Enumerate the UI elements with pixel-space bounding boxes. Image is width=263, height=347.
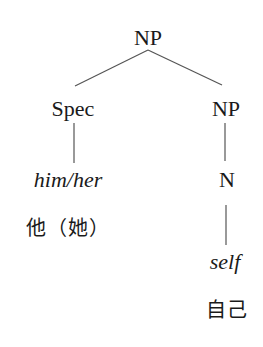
node-spec-word: him/her [34,169,102,191]
node-n: N [219,169,235,191]
node-np: NP [212,98,240,120]
node-n-gloss: 自己 [206,300,248,320]
node-spec-gloss: 他（她） [26,218,110,238]
edge-root-spec [75,50,148,86]
edge-root-np [148,50,222,85]
node-n-word: self [210,251,241,273]
node-root-np: NP [134,27,162,49]
node-spec: Spec [52,98,95,120]
